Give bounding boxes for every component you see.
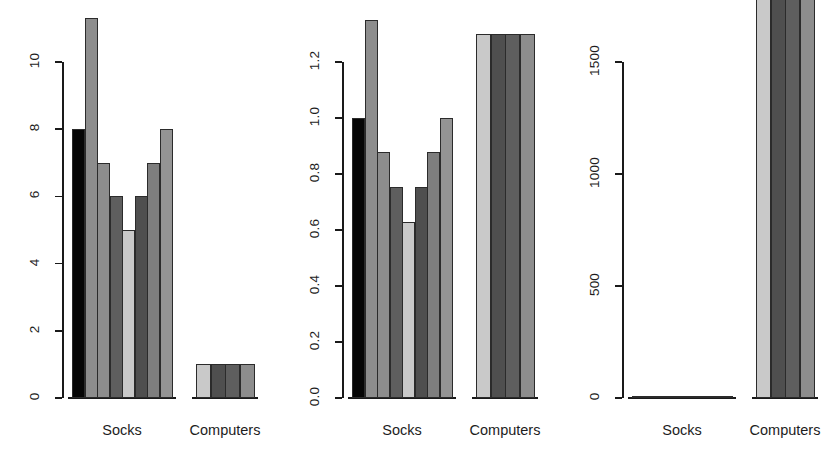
bar[interactable] — [72, 129, 85, 398]
bar[interactable] — [352, 118, 365, 398]
figure-root: 0246810SocksComputers0.00.20.40.60.81.01… — [0, 0, 840, 461]
y-axis-tick-label: 1.2 — [296, 53, 332, 68]
y-axis-tick-label: 4 — [16, 255, 52, 270]
bar[interactable] — [97, 163, 110, 398]
y-axis-tick-label: 0.6 — [296, 221, 332, 236]
y-axis-tick-label: 1000 — [576, 165, 612, 180]
y-axis-tick — [55, 397, 62, 399]
bar[interactable] — [800, 0, 815, 398]
bar[interactable] — [377, 152, 390, 398]
y-axis-tick-label: 0.0 — [296, 389, 332, 404]
x-axis-label-socks: Socks — [50, 422, 194, 438]
y-axis-tick-label: 0.4 — [296, 277, 332, 292]
bar[interactable] — [707, 396, 720, 398]
bar[interactable] — [645, 396, 658, 398]
y-axis-tick-label: 500 — [576, 277, 612, 292]
plot-area: 050010001500SocksComputers — [560, 0, 840, 461]
bar[interactable] — [85, 18, 98, 398]
y-axis-tick — [335, 117, 342, 119]
y-axis-tick — [335, 341, 342, 343]
y-axis-line — [342, 62, 344, 398]
bar[interactable] — [505, 34, 520, 398]
plot-area: 0.00.20.40.60.81.01.2SocksComputers — [280, 0, 560, 461]
bar[interactable] — [720, 396, 733, 398]
y-axis-line — [622, 62, 624, 398]
bar[interactable] — [440, 118, 453, 398]
y-axis-tick-label: 10 — [16, 53, 52, 68]
y-axis-tick — [615, 397, 622, 399]
y-axis-tick-label: 2 — [16, 322, 52, 337]
bar[interactable] — [225, 364, 240, 398]
y-axis-tick-label: 6 — [16, 187, 52, 202]
bar[interactable] — [670, 396, 683, 398]
bar[interactable] — [491, 34, 506, 398]
y-axis-tick-label: 0 — [16, 389, 52, 404]
x-axis-label-socks: Socks — [330, 422, 474, 438]
y-axis-tick-label: 0.2 — [296, 333, 332, 348]
x-axis-label-computers: Computers — [454, 422, 556, 438]
y-axis-tick — [335, 285, 342, 287]
chart-panel-3: 050010001500SocksComputers — [560, 0, 840, 461]
bar[interactable] — [135, 196, 148, 398]
bar[interactable] — [695, 396, 708, 398]
bar[interactable] — [756, 0, 771, 398]
y-axis-tick-label: 8 — [16, 120, 52, 135]
y-axis-tick — [615, 61, 622, 63]
y-axis-tick-label: 0.8 — [296, 165, 332, 180]
bar[interactable] — [632, 396, 645, 398]
bar[interactable] — [427, 152, 440, 398]
bar[interactable] — [771, 0, 786, 398]
y-axis-tick — [615, 173, 622, 175]
y-axis-tick-label: 1.0 — [296, 109, 332, 124]
bar[interactable] — [240, 364, 255, 398]
y-axis-tick — [55, 196, 62, 198]
plot-area: 0246810SocksComputers — [0, 0, 280, 461]
bar[interactable] — [390, 187, 403, 398]
bar[interactable] — [682, 396, 695, 398]
y-axis-line — [62, 62, 64, 398]
bar[interactable] — [110, 196, 123, 398]
x-axis-label-computers: Computers — [174, 422, 276, 438]
bar[interactable] — [147, 163, 160, 398]
y-axis-tick — [335, 229, 342, 231]
y-axis-tick — [55, 128, 62, 130]
bar[interactable] — [402, 222, 415, 398]
bar[interactable] — [122, 230, 135, 398]
y-axis-tick-label: 0 — [576, 389, 612, 404]
y-axis-tick — [55, 61, 62, 63]
x-axis-label-computers: Computers — [734, 422, 836, 438]
bar[interactable] — [415, 187, 428, 398]
y-axis-tick-label: 1500 — [576, 53, 612, 68]
chart-panel-1: 0246810SocksComputers — [0, 0, 280, 461]
bar[interactable] — [211, 364, 226, 398]
y-axis-tick — [615, 285, 622, 287]
y-axis-tick — [335, 173, 342, 175]
bar[interactable] — [520, 34, 535, 398]
bar[interactable] — [365, 20, 378, 398]
chart-panel-2: 0.00.20.40.60.81.01.2SocksComputers — [280, 0, 560, 461]
y-axis-tick — [55, 330, 62, 332]
bar[interactable] — [160, 129, 173, 398]
bar[interactable] — [657, 396, 670, 398]
x-axis-label-socks: Socks — [610, 422, 754, 438]
y-axis-tick — [335, 397, 342, 399]
bar[interactable] — [785, 0, 800, 398]
y-axis-tick — [335, 61, 342, 63]
bar[interactable] — [476, 34, 491, 398]
y-axis-tick — [55, 263, 62, 265]
bar[interactable] — [196, 364, 211, 398]
